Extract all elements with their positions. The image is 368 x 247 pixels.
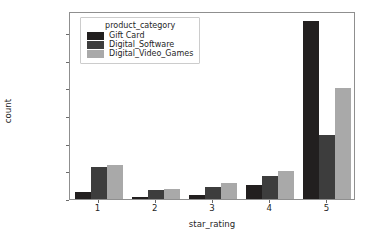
x-axis-tick-mark (98, 200, 99, 203)
legend-title: product_category (87, 21, 193, 30)
x-axis-label: star_rating (189, 219, 235, 229)
bar-group (242, 13, 299, 199)
legend-label: Digital_Software (109, 41, 174, 49)
bar-group (299, 13, 354, 199)
bar (246, 185, 262, 199)
x-axis-tick-label: 2 (152, 203, 157, 213)
legend-item: Digital_Software (87, 41, 193, 49)
bar (319, 135, 335, 199)
legend-swatch (87, 50, 104, 58)
legend-label: Digital_Video_Games (109, 50, 193, 58)
x-axis-tick-mark (269, 200, 270, 203)
x-axis-tick-label: 5 (324, 203, 329, 213)
bar (107, 165, 123, 199)
bar (91, 167, 107, 199)
legend-item: Gift Card (87, 32, 193, 40)
bar (164, 189, 180, 199)
x-axis-tick-label: 3 (209, 203, 214, 213)
bar (132, 197, 148, 199)
legend-swatch (87, 32, 104, 40)
bar (335, 88, 351, 199)
x-axis-tick-mark (155, 200, 156, 203)
y-axis-label: count (3, 99, 13, 123)
legend: product_category Gift CardDigital_Softwa… (80, 17, 200, 64)
x-axis-tick-label: 4 (266, 203, 271, 213)
bar-chart-figure: count 020000400006000080000100000120000 … (0, 0, 368, 247)
bar (205, 187, 221, 199)
legend-label: Gift Card (109, 32, 145, 40)
y-axis-tick-mark (66, 200, 69, 201)
legend-swatch (87, 41, 104, 49)
bar (262, 176, 278, 199)
bar (278, 171, 294, 199)
bar (148, 190, 164, 199)
legend-item: Digital_Video_Games (87, 50, 193, 58)
legend-rows: Gift CardDigital_SoftwareDigital_Video_G… (87, 32, 193, 58)
bar (75, 192, 91, 199)
bar (221, 183, 237, 199)
x-axis-tick-mark (212, 200, 213, 203)
x-axis-tick-label: 1 (95, 203, 100, 213)
x-axis-tick-mark (326, 200, 327, 203)
bar (189, 195, 205, 199)
bar (303, 21, 319, 199)
